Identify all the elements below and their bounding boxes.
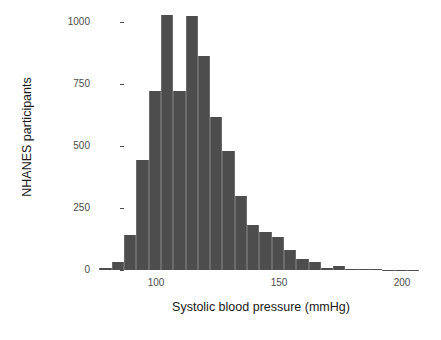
- histogram-bar: [395, 270, 407, 271]
- x-tick-label: 150: [259, 278, 299, 288]
- y-tick-mark: [120, 270, 124, 271]
- histogram-bar: [333, 266, 345, 270]
- histogram-bar: [272, 237, 284, 270]
- histogram-bar: [149, 91, 161, 270]
- histogram-bar: [345, 269, 357, 270]
- y-tick-mark: [120, 208, 124, 209]
- histogram-bar: [112, 262, 124, 270]
- histogram-bar: [222, 151, 234, 270]
- y-axis-ticks: 02505007501000: [30, 0, 90, 340]
- histogram-bar: [309, 262, 321, 270]
- histogram-bar: [259, 232, 271, 270]
- histogram-bar: [358, 269, 370, 270]
- histogram-bar: [173, 91, 185, 270]
- y-tick-label: 1000: [46, 17, 90, 27]
- y-tick-label: 0: [46, 265, 90, 275]
- histogram-bar: [407, 270, 419, 271]
- x-tick-label: 200: [382, 278, 422, 288]
- histogram-bar: [382, 270, 394, 271]
- histogram-bar: [161, 15, 173, 270]
- y-tick-label: 250: [46, 203, 90, 213]
- y-tick-mark: [120, 146, 124, 147]
- histogram-bar: [284, 250, 296, 270]
- histogram-figure: 02505007501000 NHANES participants Systo…: [0, 0, 441, 340]
- y-axis-title: NHANES participants: [18, 2, 36, 272]
- histogram-bar: [296, 259, 308, 270]
- y-tick-mark: [120, 84, 124, 85]
- histogram-bar: [321, 268, 333, 270]
- y-tick-mark: [120, 22, 124, 23]
- histogram-bar: [247, 225, 259, 270]
- histogram-bar: [210, 117, 222, 270]
- y-tick-label: 500: [46, 141, 90, 151]
- x-tick-label: 100: [136, 278, 176, 288]
- histogram-bar: [235, 196, 247, 270]
- histogram-bar: [99, 268, 111, 270]
- histogram-bar: [124, 235, 136, 270]
- histogram-bar: [198, 56, 210, 270]
- histogram-bar: [186, 16, 198, 270]
- y-tick-label: 750: [46, 79, 90, 89]
- x-axis-title: Systolic blood pressure (mmHg): [96, 300, 426, 314]
- histogram-bar: [136, 160, 148, 270]
- histogram-bar: [370, 269, 382, 270]
